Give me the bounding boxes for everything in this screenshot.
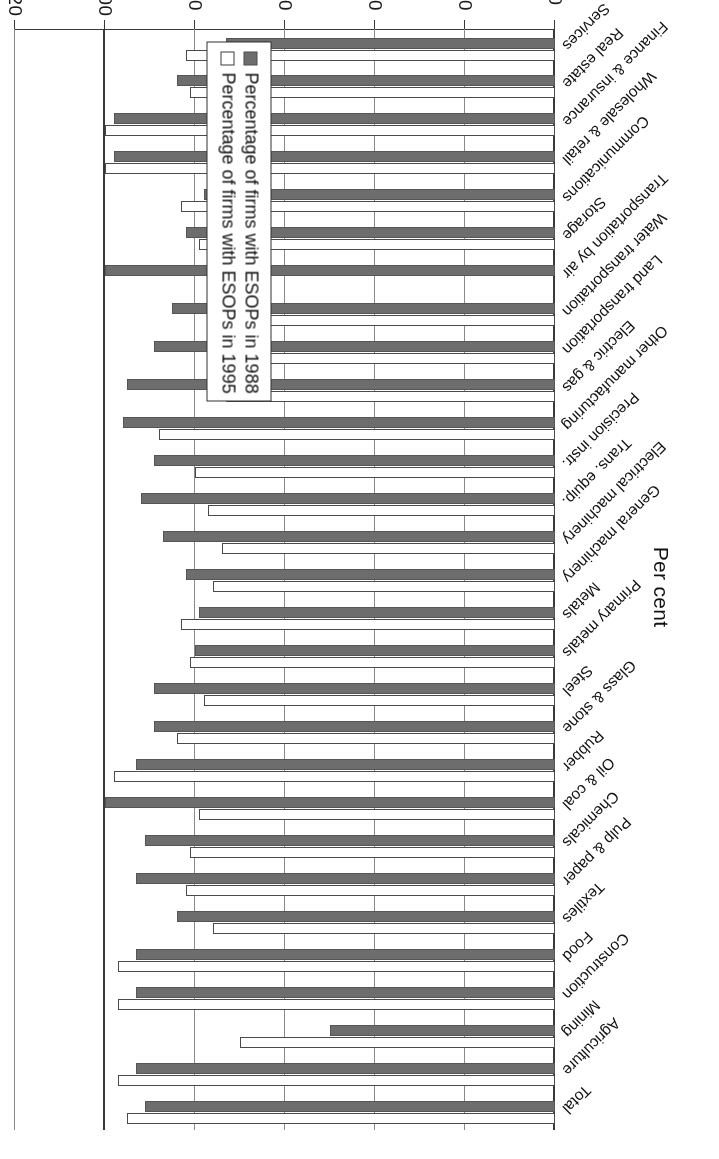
plot-area: 020406080100120 TotalAgricultureMiningCo… (15, 29, 555, 1130)
bar-1988 (137, 987, 556, 998)
bar-1988 (128, 379, 556, 390)
tick-120 (14, 20, 15, 29)
bar-row: Communications (15, 181, 555, 219)
bar-row: Transportation by air (15, 257, 555, 295)
tick-label-0: 0 (544, 0, 566, 5)
legend-item: Percentage of firms with ESOPs in 1995 (218, 52, 239, 392)
bar-row: Electric & gas (15, 371, 555, 409)
bar-1988 (146, 1101, 556, 1112)
bar-1995 (105, 125, 555, 136)
bar-1988 (164, 531, 556, 542)
legend-label-1988: Percentage of firms with ESOPs in 1988 (241, 73, 262, 394)
bar-1995 (191, 657, 556, 668)
bar-1988 (177, 911, 555, 922)
bar-row: Chemicals (15, 826, 555, 864)
bar-1988 (330, 1025, 555, 1036)
tick-label-120: 120 (4, 0, 26, 16)
bar-1988 (114, 113, 555, 124)
bar-1995 (128, 1113, 556, 1124)
bar-row: Mining (15, 1016, 555, 1054)
bar-1995 (195, 467, 555, 478)
bar-row: Agriculture (15, 1054, 555, 1092)
bar-1995 (186, 885, 555, 896)
bar-row: Precision instr. (15, 447, 555, 485)
bar-1988 (155, 721, 556, 732)
bar-row: Total (15, 1092, 555, 1130)
bar-1995 (159, 429, 555, 440)
bar-row: Other manufacturing (15, 409, 555, 447)
chart-legend: Percentage of firms with ESOPs in 1988 P… (207, 42, 272, 402)
bar-1995 (240, 1037, 555, 1048)
bar-1988 (195, 645, 555, 656)
bar-row: Glass & stone (15, 712, 555, 750)
bar-1995 (213, 923, 555, 934)
bar-1995 (114, 771, 555, 782)
tick-label-100: 100 (94, 0, 116, 16)
bar-1995 (119, 999, 556, 1010)
tick-label-40: 40 (364, 0, 386, 11)
bar-1995 (213, 581, 555, 592)
bar-1988 (137, 949, 556, 960)
bar-1995 (231, 315, 555, 326)
legend-swatch-1988-icon (244, 52, 258, 66)
bar-1988 (123, 417, 555, 428)
tick-20 (464, 20, 465, 29)
bar-1988 (114, 151, 555, 162)
bar-1995 (105, 163, 555, 174)
bar-chart-figure: 020406080100120 TotalAgricultureMiningCo… (0, 0, 719, 1159)
bar-row: Pulp & paper (15, 864, 555, 902)
bar-1995 (200, 809, 556, 820)
bar-row: Services (15, 29, 555, 67)
bar-1988 (105, 265, 555, 276)
bar-1995 (222, 543, 555, 554)
tick-40 (374, 20, 375, 29)
legend-swatch-1995-icon (221, 52, 235, 66)
figure-rotation-wrapper: 020406080100120 TotalAgricultureMiningCo… (0, 0, 719, 1159)
bar-1988 (137, 873, 556, 884)
tick-label-20: 20 (454, 0, 476, 11)
tick-100 (104, 20, 105, 29)
bar-row: General machinery (15, 561, 555, 599)
bar-1988 (146, 835, 556, 846)
bar-1988 (141, 493, 555, 504)
bar-1988 (227, 38, 556, 49)
bar-row: Oil & coal (15, 788, 555, 826)
bar-row: Storage (15, 219, 555, 257)
bar-row: Steel (15, 674, 555, 712)
tick-label-60: 60 (274, 0, 296, 11)
bar-1995 (227, 391, 556, 402)
bar-1995 (119, 1075, 556, 1086)
bar-1995 (209, 505, 556, 516)
bar-1988 (155, 683, 556, 694)
bar-row: Finance & insurance (15, 105, 555, 143)
bar-row: Electrical machinery (15, 523, 555, 561)
bar-row: Textiles (15, 902, 555, 940)
bar-1995 (119, 961, 556, 972)
tick-label-80: 80 (184, 0, 206, 11)
bar-row: Water transportation (15, 295, 555, 333)
bar-1995 (182, 619, 556, 630)
bar-1988 (200, 607, 556, 618)
legend-item: Percentage of firms with ESOPs in 1988 (241, 52, 262, 392)
bar-row: Land transportation (15, 333, 555, 371)
legend-label-1995: Percentage of firms with ESOPs in 1995 (218, 73, 239, 394)
bar-row: Metals (15, 599, 555, 637)
bar-1988 (155, 455, 556, 466)
category-label: Total (559, 1082, 595, 1118)
bar-row: Construction (15, 978, 555, 1016)
bar-row: Primary metals (15, 636, 555, 674)
bar-row: Trans. equip. (15, 485, 555, 523)
bar-1988 (105, 797, 555, 808)
bar-row: Real estate (15, 67, 555, 105)
bar-1988 (186, 569, 555, 580)
bar-1988 (137, 1063, 556, 1074)
bar-1995 (177, 733, 555, 744)
bar-row: Wholesale & retail (15, 143, 555, 181)
bar-1995 (191, 847, 556, 858)
bar-1995 (204, 695, 555, 706)
tick-80 (194, 20, 195, 29)
bar-row: Rubber (15, 750, 555, 788)
tick-0 (554, 20, 555, 29)
bar-row: Food (15, 940, 555, 978)
category-label: Textiles (559, 878, 608, 927)
